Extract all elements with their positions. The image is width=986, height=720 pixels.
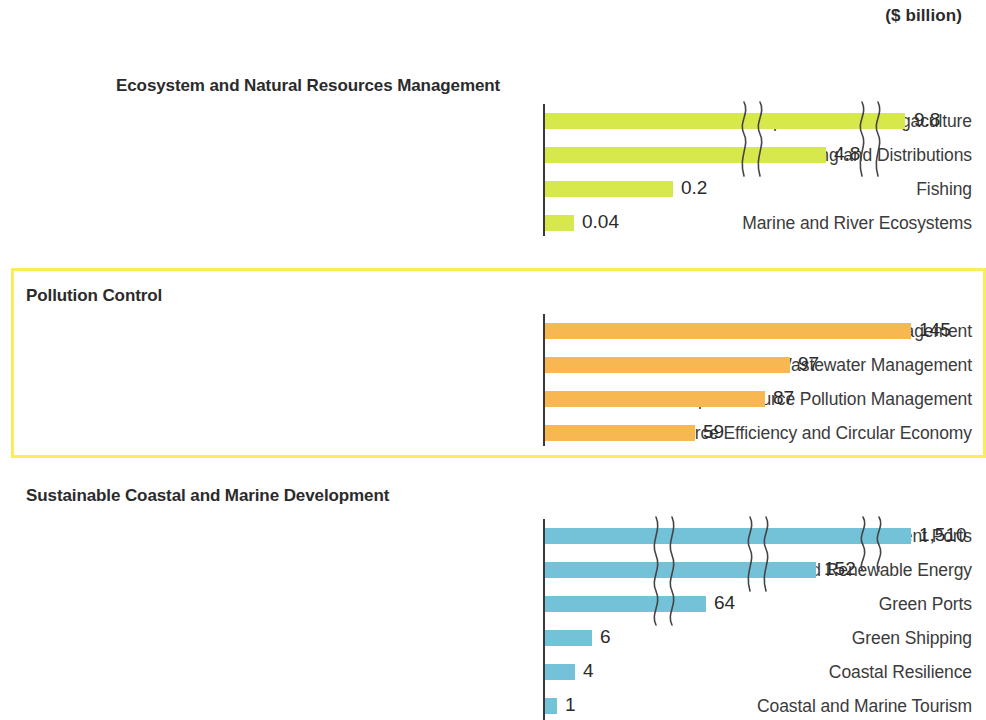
bar bbox=[545, 391, 765, 407]
bar bbox=[545, 323, 911, 339]
bar-value: 64 bbox=[714, 592, 735, 614]
bar bbox=[545, 181, 673, 197]
bar bbox=[545, 698, 557, 714]
unit-header: ($ billion) bbox=[885, 6, 962, 26]
bar bbox=[545, 630, 592, 646]
bar-value: 59 bbox=[703, 421, 724, 443]
bar-row: Marine and River Ecosystems 0.04 bbox=[0, 212, 972, 246]
group-title-pollution-control: Pollution Control bbox=[26, 286, 162, 306]
bar-value: 6 bbox=[600, 626, 611, 648]
bar bbox=[545, 215, 574, 231]
bar-row: Fishing 0.2 bbox=[0, 178, 972, 212]
bar bbox=[545, 425, 695, 441]
bar-label: Coastal and Marine Tourism bbox=[442, 695, 972, 717]
bar-value: 1,510 bbox=[919, 524, 967, 546]
bar-value: 87 bbox=[773, 387, 794, 409]
bar bbox=[545, 147, 826, 163]
bar-value: 1 bbox=[565, 694, 576, 716]
bar-label: Green Ports bbox=[442, 593, 972, 615]
group-title-sustainable-coastal: Sustainable Coastal and Marine Developme… bbox=[26, 486, 389, 506]
group-title-ecosystem: Ecosystem and Natural Resources Manageme… bbox=[116, 76, 500, 96]
bar-value: 4 bbox=[583, 660, 594, 682]
bar bbox=[545, 113, 905, 129]
bar-value: 9.8 bbox=[914, 109, 940, 131]
bar-row: Coastal and Marine Tourism 1 bbox=[0, 695, 972, 720]
bar-row: Nonpoint Source Pollution Management 87 bbox=[0, 388, 972, 422]
bar-label: Coastal Resilience bbox=[442, 661, 972, 683]
bar-row: Marine Offshore Wind Renewable Energy 15… bbox=[0, 559, 972, 593]
bar bbox=[545, 664, 575, 680]
bar-row: Green Shipping 6 bbox=[0, 627, 972, 661]
bar-value: 97 bbox=[798, 353, 819, 375]
bar-row: Seafood Processing and Distributions 4.8 bbox=[0, 144, 972, 178]
bar-row: Green Ports 64 bbox=[0, 593, 972, 627]
bar bbox=[545, 596, 706, 612]
bar-label: Green Shipping bbox=[442, 627, 972, 649]
bar-row: Solid Waste Management 145 bbox=[0, 320, 972, 354]
bar-value: 4.8 bbox=[834, 143, 860, 165]
bar bbox=[545, 528, 911, 544]
bar-value: 145 bbox=[919, 319, 951, 341]
bar-row: Wastewater Management 97 bbox=[0, 354, 972, 388]
bar bbox=[545, 562, 816, 578]
bar-value: 0.2 bbox=[681, 177, 707, 199]
bar-row: Aquaculture and Algaculture 9.8 bbox=[0, 110, 972, 144]
bar-value: 152 bbox=[824, 558, 856, 580]
bar-row: Resource Efficiency and Circular Economy… bbox=[0, 422, 972, 456]
bar-row: Resilient Ports 1,510 bbox=[0, 525, 972, 559]
bar-value: 0.04 bbox=[582, 211, 619, 233]
bar bbox=[545, 357, 790, 373]
bar-row: Coastal Resilience 4 bbox=[0, 661, 972, 695]
bar-label: Marine and River Ecosystems bbox=[442, 212, 972, 234]
